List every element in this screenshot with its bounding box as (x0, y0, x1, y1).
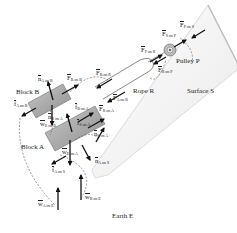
label-pulley-p: Pulley P (176, 58, 200, 65)
force-label-n-a-on-b: nA on B (38, 76, 53, 83)
label-block-b: Block B (16, 89, 39, 96)
interaction-diagram (0, 0, 237, 233)
force-label-n-a-on-s: nA on S (95, 158, 109, 165)
force-label-f-r-on-p: FR on P (158, 67, 173, 74)
force-label-f-s-on-a: fS on A (77, 120, 90, 127)
force-label-w-b-on-e: wB on E (85, 194, 101, 201)
block-a (45, 106, 105, 151)
force-label-n-b-on-a: nB on A (48, 114, 63, 121)
force-label-f-b-on-r: FB on R (96, 70, 111, 77)
force-label-f-p-on-s: FP on S (180, 22, 194, 29)
pulley-p (164, 44, 176, 56)
label-block-a: Block A (21, 144, 44, 151)
force-label-f-r-on-b: FR on B (67, 75, 82, 82)
force-label-f-a-on-r: FA on R (113, 95, 128, 102)
force-label-f-s-on-p: FS on P (162, 31, 176, 38)
label-surface-s: Surface S (187, 88, 214, 95)
label-earth-e: Earth E (112, 213, 133, 220)
force-label-w-e-on-b: wE on B (40, 121, 56, 128)
force-label-f-r-on-a: FR on A (99, 106, 114, 113)
force-label-n-s-on-a: nS on A (94, 131, 108, 138)
force-label-f-a-on-s: fA on S (52, 167, 65, 174)
force-label-f-a-on-b: fA on B (14, 101, 28, 108)
force-label-w-e-on-a: wE on A (62, 149, 78, 156)
force-label-w-a-on-e: wA on E (38, 201, 54, 208)
force-label-f-b-on-a: fB on A (75, 104, 89, 111)
label-rope-r: Rope R (133, 88, 154, 95)
force-label-f-p-on-r: FP on R (141, 47, 155, 54)
